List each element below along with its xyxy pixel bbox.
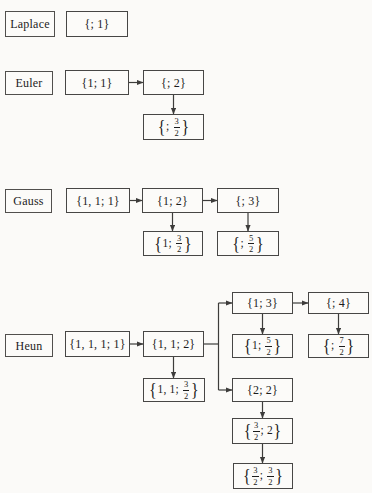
fraction-denominator: 2: [339, 346, 345, 357]
close-brace: }: [273, 422, 282, 441]
node-heun-2-2: {2; 2}: [232, 378, 293, 402]
node-text: {2; 2}: [247, 384, 278, 396]
fraction-denominator: 2: [253, 431, 259, 442]
open-brace: {: [243, 422, 252, 441]
node-text: {1, 1; 1}: [76, 195, 120, 207]
close-brace: }: [183, 234, 192, 253]
fraction: 32: [253, 421, 259, 441]
close-brace: }: [273, 337, 282, 356]
node-text: 1, 1;: [158, 384, 183, 396]
fraction-numerator: 3: [183, 380, 189, 390]
node-heun-3h-2: {32; 2}: [232, 418, 293, 444]
node-gauss-1-2: {1; 2}: [142, 188, 203, 213]
node-text: Heun: [16, 340, 43, 352]
fraction-denominator: 2: [265, 346, 271, 357]
row-label-laplace: Laplace: [5, 11, 55, 37]
node-heun-0-4: {; 4}: [308, 292, 369, 314]
open-brace: {: [243, 337, 252, 356]
row-label-gauss: Gauss: [5, 189, 52, 213]
fraction: 72: [339, 336, 345, 356]
fraction-denominator: 2: [183, 390, 189, 401]
fraction: 52: [265, 336, 271, 356]
node-euler-0-2: {; 2}: [143, 70, 204, 95]
node-gauss-11-1: {1, 1; 1}: [66, 188, 130, 213]
node-text: {1; 3}: [247, 297, 278, 309]
node-text: {1, 1; 2}: [152, 338, 196, 350]
close-brace: }: [181, 118, 190, 137]
fraction: 52: [248, 234, 254, 254]
node-heun-0-7h: {; 72}: [308, 334, 369, 358]
node-text: {1, 1, 1; 1}: [69, 338, 125, 350]
node-heun-1-3: {1; 3}: [232, 292, 293, 314]
node-text: ; 2: [261, 425, 273, 437]
close-brace: }: [190, 381, 199, 400]
node-gauss-0-5h: {; 52}: [217, 231, 279, 256]
node-euler-0-3h: {; 32}: [143, 114, 204, 140]
fraction-denominator: 2: [174, 127, 180, 138]
fraction: 32: [252, 466, 258, 486]
fraction: 32: [183, 380, 189, 400]
fraction-numerator: 5: [265, 336, 271, 346]
fraction-denominator: 2: [248, 243, 254, 254]
node-text: ;: [260, 470, 266, 482]
node-text: 1;: [163, 238, 175, 250]
node-text: ;: [331, 340, 337, 352]
fraction-denominator: 2: [252, 476, 258, 487]
node-text: {1; 1}: [81, 77, 112, 89]
fraction-numerator: 3: [267, 466, 273, 476]
node-text: ;: [166, 121, 172, 133]
node-heun-111-1: {1, 1, 1; 1}: [65, 331, 130, 357]
node-heun-11-3h: {1, 1; 32}: [143, 378, 205, 402]
close-brace: }: [255, 234, 264, 253]
fraction: 32: [174, 117, 180, 137]
close-brace: }: [275, 467, 284, 486]
row-label-heun: Heun: [5, 334, 53, 357]
fraction-numerator: 3: [176, 234, 182, 244]
fraction-numerator: 3: [174, 117, 180, 127]
close-brace: }: [346, 337, 355, 356]
node-text: Laplace: [10, 18, 49, 30]
node-gauss-1-3h: {1; 32}: [143, 231, 203, 256]
node-text: 1;: [252, 340, 264, 352]
node-text: ;: [241, 238, 247, 250]
node-heun-1-5h: {1; 52}: [232, 334, 293, 358]
open-brace: {: [232, 234, 241, 253]
fraction-numerator: 3: [252, 466, 258, 476]
fraction: 32: [176, 234, 182, 254]
node-text: {; 1}: [85, 18, 110, 30]
node-text: {; 4}: [326, 297, 351, 309]
node-heun-3h-3h: {32; 32}: [233, 463, 293, 489]
open-brace: {: [322, 337, 331, 356]
fraction-denominator: 2: [267, 476, 273, 487]
node-gauss-0-3: {; 3}: [217, 188, 279, 213]
node-text: {1; 2}: [157, 195, 188, 207]
node-text: Euler: [16, 77, 43, 89]
node-text: {; 2}: [161, 77, 186, 89]
open-brace: {: [242, 467, 251, 486]
node-heun-11-2: {1, 1; 2}: [143, 331, 204, 357]
fraction: 32: [267, 466, 273, 486]
fraction-denominator: 2: [176, 243, 182, 254]
open-brace: {: [149, 381, 158, 400]
fraction-numerator: 5: [248, 234, 254, 244]
open-brace: {: [157, 118, 166, 137]
node-text: Gauss: [13, 195, 43, 207]
fraction-numerator: 7: [339, 336, 345, 346]
node-text: {; 3}: [236, 195, 261, 207]
node-laplace-0-1: {; 1}: [66, 11, 128, 37]
open-brace: {: [154, 234, 163, 253]
methods-tree-diagram: Laplace{; 1}Euler{1; 1}{; 2}{; 32}Gauss{…: [0, 0, 372, 493]
fraction-numerator: 3: [253, 421, 259, 431]
row-label-euler: Euler: [5, 71, 53, 95]
node-euler-1-1: {1; 1}: [65, 70, 129, 95]
